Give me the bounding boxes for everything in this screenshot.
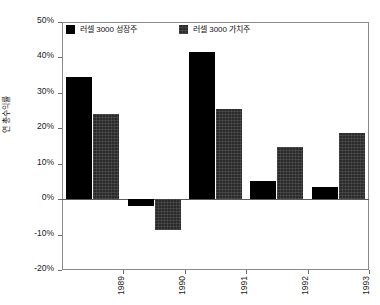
bar-1992-growth bbox=[250, 181, 276, 199]
legend-swatch-icon-value bbox=[179, 25, 188, 34]
x-tick-mark bbox=[185, 270, 186, 274]
legend-swatch-icon-growth bbox=[66, 25, 75, 34]
x-tick-mark bbox=[369, 270, 370, 274]
y-tick-label: 10% bbox=[37, 158, 54, 167]
x-tick-mark bbox=[308, 270, 309, 274]
y-tick-mark bbox=[58, 270, 62, 271]
y-tick-label: 0% bbox=[42, 193, 54, 202]
bar-1990-value bbox=[155, 199, 181, 230]
y-tick-label: -20% bbox=[34, 264, 54, 273]
x-tick-label: 1993 bbox=[361, 276, 371, 305]
bars-layer bbox=[62, 22, 369, 270]
x-tick-label: 1992 bbox=[300, 276, 310, 305]
y-tick-label: 40% bbox=[37, 51, 54, 60]
x-tick-label: 1990 bbox=[177, 276, 187, 305]
legend-item-value: 러셀 3000 가치주 bbox=[179, 25, 250, 34]
x-tick-label: 1989 bbox=[116, 276, 126, 305]
bar-1993-value bbox=[339, 133, 365, 199]
x-tick-mark bbox=[246, 270, 247, 274]
legend-item-growth: 러셀 3000 성장주 bbox=[66, 25, 179, 34]
bar-1989-growth bbox=[66, 77, 92, 199]
y-tick-label: 50% bbox=[37, 16, 54, 25]
legend-label-growth: 러셀 3000 성장주 bbox=[80, 25, 137, 34]
x-tick-label: 1991 bbox=[239, 276, 249, 305]
chart-legend: 러셀 3000 성장주 러셀 3000 가치주 bbox=[66, 25, 250, 34]
legend-label-value: 러셀 3000 가치주 bbox=[193, 25, 250, 34]
bar-1989-value bbox=[93, 114, 119, 199]
bar-1990-growth bbox=[128, 199, 154, 206]
y-tick-label: 20% bbox=[37, 122, 54, 131]
bar-1991-growth bbox=[189, 52, 215, 199]
bar-1992-value bbox=[277, 147, 303, 199]
bar-1991-value bbox=[216, 109, 242, 199]
y-tick-label: 30% bbox=[37, 87, 54, 96]
y-axis-title: 연 총수익률 bbox=[2, 85, 11, 145]
bar-chart: 연 총수익률 50%40%30%20%10%0%-10%-20% 1989199… bbox=[0, 0, 380, 305]
x-tick-mark bbox=[123, 270, 124, 274]
bar-1993-growth bbox=[312, 187, 338, 199]
y-tick-label: -10% bbox=[34, 229, 54, 238]
